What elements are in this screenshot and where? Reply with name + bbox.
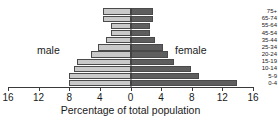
x-tick-label: 4: [97, 92, 103, 103]
bar-male-45-54: [77, 59, 131, 65]
x-tick-label: 0: [128, 92, 134, 103]
bar-male-25-34: [98, 44, 131, 50]
bar-male-35-44: [91, 51, 131, 57]
x-tick-label: 16: [2, 92, 13, 103]
bar-female-75+: [131, 80, 237, 86]
bar-female-65-74: [131, 73, 200, 79]
x-tick-label: 12: [217, 92, 228, 103]
age-label-35-44: 35-44: [254, 37, 278, 44]
bar-male-0-4: [103, 8, 131, 14]
age-group-axis-labels: 75+65-7455-6445-5435-4425-3420-2415-1910…: [254, 8, 278, 87]
bar-female-25-34: [131, 44, 163, 50]
age-label-65-74: 65-74: [254, 15, 278, 22]
bar-female-55-64: [131, 66, 191, 72]
series-label-female: female: [175, 44, 207, 56]
age-label-20-24: 20-24: [254, 51, 278, 58]
age-label-25-34: 25-34: [254, 44, 278, 51]
x-tick: [8, 87, 9, 91]
bar-male-65-74: [69, 73, 130, 79]
age-label-0-4: 0-4: [254, 80, 278, 87]
bar-male-5-9: [103, 16, 131, 22]
x-tick: [131, 87, 132, 91]
x-tick: [222, 87, 223, 91]
bar-female-10-14: [131, 23, 151, 29]
bar-male-10-14: [111, 23, 131, 29]
x-tick: [192, 87, 193, 91]
age-label-15-19: 15-19: [254, 58, 278, 65]
bar-male-55-64: [74, 66, 131, 72]
bar-female-20-24: [131, 37, 156, 43]
x-tick-label: 12: [33, 92, 44, 103]
bar-male-20-24: [106, 37, 131, 43]
age-label-75+: 75+: [254, 8, 278, 15]
zero-axis-line: [130, 8, 131, 87]
x-tick: [253, 87, 254, 91]
bar-female-45-54: [131, 59, 175, 65]
x-tick-label: 4: [158, 92, 164, 103]
x-tick: [100, 87, 101, 91]
age-label-55-64: 55-64: [254, 22, 278, 29]
x-tick: [39, 87, 40, 91]
bar-male-75+: [69, 80, 130, 86]
population-pyramid-chart: 75+65-7455-6445-5435-4425-3420-2415-1910…: [0, 0, 278, 121]
bar-female-0-4: [131, 8, 154, 14]
bar-female-35-44: [131, 51, 169, 57]
x-tick: [69, 87, 70, 91]
x-tick: [161, 87, 162, 91]
age-label-45-54: 45-54: [254, 30, 278, 37]
x-tick-label: 8: [189, 92, 195, 103]
x-axis-tick-labels: 1612840481216: [0, 92, 261, 104]
age-label-5-9: 5-9: [254, 73, 278, 80]
age-label-10-14: 10-14: [254, 65, 278, 72]
series-label-male: male: [37, 44, 60, 56]
x-axis-title: Percentage of total population: [0, 104, 261, 116]
x-tick-label: 16: [247, 92, 258, 103]
bar-female-15-19: [131, 30, 151, 36]
bar-male-15-19: [111, 30, 131, 36]
bar-female-5-9: [131, 16, 154, 22]
x-tick-label: 8: [66, 92, 72, 103]
